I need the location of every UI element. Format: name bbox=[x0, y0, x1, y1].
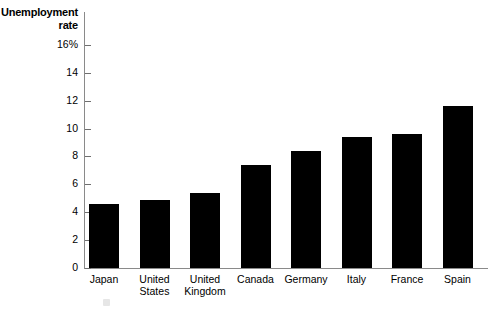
x-axis-label-line: Canada bbox=[237, 273, 274, 285]
bar-spain bbox=[443, 106, 473, 268]
y-axis-tick-label: 12 bbox=[34, 95, 78, 106]
x-axis-label-line: United bbox=[190, 273, 220, 285]
y-axis-tick bbox=[85, 184, 91, 185]
y-axis-tick-label: 8 bbox=[34, 150, 78, 161]
x-axis-line bbox=[84, 268, 488, 269]
x-axis-label-line: United bbox=[139, 273, 169, 285]
y-axis-tick bbox=[85, 73, 91, 74]
bar-united-kingdom bbox=[190, 193, 220, 268]
bar-canada bbox=[241, 165, 271, 268]
x-axis-label-line: France bbox=[391, 273, 424, 285]
x-axis-label-line: Japan bbox=[90, 273, 119, 285]
scan-artifact bbox=[103, 299, 110, 306]
bar-italy bbox=[342, 137, 372, 268]
y-axis-title-line-1: Unemployment bbox=[1, 6, 78, 18]
y-axis-tick-label: 0 bbox=[34, 262, 78, 273]
x-axis-label-line: Italy bbox=[347, 273, 366, 285]
x-axis-label-line: Kingdom bbox=[184, 285, 225, 297]
y-axis-tick-label: 10 bbox=[34, 123, 78, 134]
bar-japan bbox=[89, 204, 119, 268]
y-axis-tick-label: 16% bbox=[34, 39, 78, 50]
x-axis-label-line: Spain bbox=[444, 273, 471, 285]
y-axis-tick-label: 4 bbox=[34, 206, 78, 217]
y-axis-title-line-2: rate bbox=[59, 19, 78, 31]
y-axis-line bbox=[84, 12, 85, 269]
bar-germany bbox=[291, 151, 321, 268]
y-axis-tick bbox=[85, 45, 91, 46]
unemployment-rate-bar-chart: Unemployment rate 0246810121416% JapanUn… bbox=[0, 0, 497, 313]
y-axis-tick bbox=[85, 268, 91, 269]
bar-france bbox=[392, 134, 422, 268]
x-axis-label-line: States bbox=[140, 285, 170, 297]
y-axis-tick bbox=[85, 129, 91, 130]
y-axis-title: Unemployment rate bbox=[0, 6, 78, 32]
y-axis-tick bbox=[85, 156, 91, 157]
bar-united-states bbox=[140, 200, 170, 268]
x-axis-label-spain: Spain bbox=[427, 273, 489, 285]
x-axis-label-line: Germany bbox=[284, 273, 327, 285]
y-axis-tick-label: 14 bbox=[34, 67, 78, 78]
y-axis-tick-label: 2 bbox=[34, 234, 78, 245]
y-axis-tick-label: 6 bbox=[34, 178, 78, 189]
y-axis-tick bbox=[85, 101, 91, 102]
